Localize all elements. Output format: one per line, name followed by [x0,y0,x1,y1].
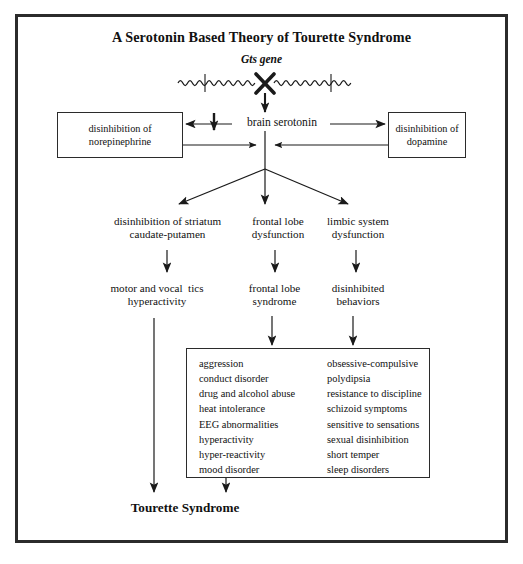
symptom-item: sleep disorders [327,462,437,477]
symptom-item: drug and alcohol abuse [199,386,317,401]
box-disinhibition-of-norepinephrine: disinhibition of norepinephrine [57,112,183,158]
symptom-item: resistance to discipline [327,386,437,401]
node-motor-and-vocal-tics: motor and vocal tics hyperactivity [92,282,222,308]
box-norepinephrine-label: disinhibition of norepinephrine [58,122,182,148]
symptom-column-right: obsessive-compulsivepolydipsiaresistance… [327,356,437,477]
node-frontal-lobe-dysfunction: frontal lobe dysfunction [238,215,318,241]
symptom-item: schizoid symptoms [327,401,437,416]
node-limbic-system-dysfunction: limbic system dysfunction [313,215,403,241]
box-dopamine-label: disinhibition of dopamine [389,122,465,148]
node-frontal-lobe-syndrome: frontal lobe syndrome [232,282,317,308]
symptom-item: polydipsia [327,371,437,386]
gene-label: Gts gene [0,53,523,67]
node-brain-serotonin: brain serotonin [222,116,342,130]
symptom-column-left: aggressionconduct disorderdrug and alcoh… [199,356,317,477]
diagram-page: A Serotonin Based Theory of Tourette Syn… [0,0,523,564]
symptom-list-box: aggressionconduct disorderdrug and alcoh… [186,348,430,478]
symptom-item: EEG abnormalities [199,417,317,432]
symptom-item: mood disorder [199,462,317,477]
symptom-item: sexual disinhibition [327,432,437,447]
node-disinhibition-of-striatum: disinhibition of striatum caudate-putame… [95,215,240,241]
symptom-item: sensitive to sensations [327,417,437,432]
symptom-item: conduct disorder [199,371,317,386]
symptom-item: hyperactivity [199,432,317,447]
symptom-item: aggression [199,356,317,371]
symptom-item: short temper [327,447,437,462]
symptom-item: hyper-reactivity [199,447,317,462]
page-title: A Serotonin Based Theory of Tourette Syn… [0,29,523,46]
node-tourette-syndrome: Tourette Syndrome [70,500,300,516]
symptom-item: heat intolerance [199,401,317,416]
box-disinhibition-of-dopamine: disinhibition of dopamine [388,112,466,158]
node-disinhibited-behaviors: disinhibited behaviors [313,282,403,308]
symptom-item: obsessive-compulsive [327,356,437,371]
symptom-columns: aggressionconduct disorderdrug and alcoh… [199,356,437,477]
